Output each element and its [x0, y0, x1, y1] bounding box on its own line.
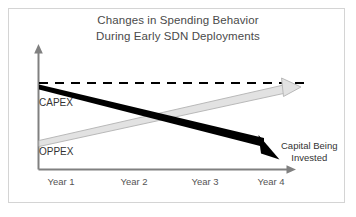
x-axis [39, 165, 297, 174]
oppex-label: OPPEX [39, 146, 73, 158]
capital-being-invested-label: Capital Being Invested [281, 140, 338, 163]
capital-label-line-1: Capital Being [281, 140, 338, 152]
tick-label-year-4: Year 4 [257, 176, 284, 187]
y-axis-arrowhead-icon [34, 44, 43, 54]
tick-label-year-3: Year 3 [191, 176, 218, 187]
x-axis-arrowhead-icon [287, 165, 297, 174]
capex-label: CAPEX [39, 97, 73, 109]
figure-canvas: Changes in Spending Behavior During Earl… [0, 0, 356, 217]
capital-label-line-2: Invested [281, 152, 338, 164]
oppex-arrowhead-icon [282, 78, 302, 97]
tick-label-year-2: Year 2 [120, 176, 147, 187]
capex-arrowhead-icon [259, 135, 280, 160]
oppex-arrow [39, 78, 301, 147]
tick-label-year-1: Year 1 [47, 176, 74, 187]
